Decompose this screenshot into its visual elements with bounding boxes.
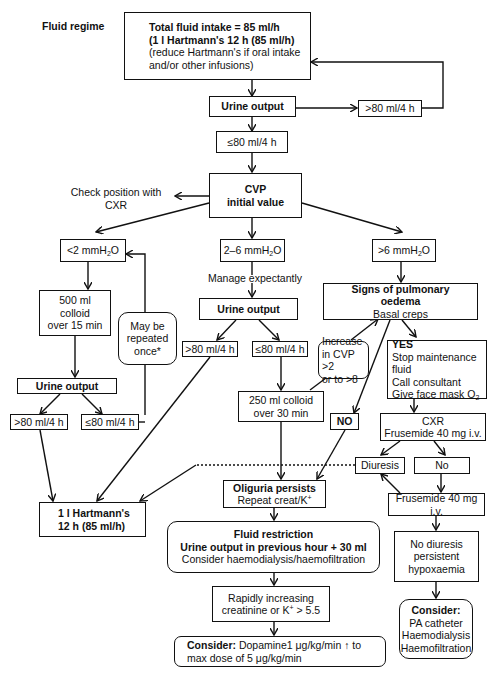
yes-line3: Call consultant	[392, 376, 461, 389]
dop-bold: Consider:	[187, 639, 236, 651]
inc-line3: or to >8	[322, 373, 358, 386]
lt2-label: <2 mmH	[67, 244, 107, 256]
nod-line3: hypoxaemia	[408, 563, 465, 576]
inc-line1: Increase	[322, 335, 362, 348]
start-node: Total fluid intake = 85 ml/h (1 l Hartma…	[124, 12, 311, 80]
check-line1: Check position with	[65, 186, 167, 199]
fluid-restriction-node: Fluid restriction Urine output in previo…	[167, 521, 380, 573]
cxr-line1: CXR	[422, 415, 444, 428]
yes-line4: Give face mask O	[392, 388, 475, 400]
restr-line1: Fluid restriction	[234, 528, 313, 541]
pulm-line1: Signs of pulmonary	[351, 283, 449, 296]
inc-line2: in CVP >2	[322, 348, 368, 373]
gt80-top: >80 ml/4 h	[358, 100, 422, 117]
gt6-label: >6 mmH	[378, 244, 418, 256]
colloid500-line2: colloid	[60, 307, 90, 320]
no2-node: No	[414, 457, 470, 474]
restr-line2: Urine output in previous hour + 30 ml	[180, 541, 366, 554]
diagram-title: Fluid regime	[42, 20, 104, 33]
oliguria-node: Oliguria persists Repeat creat/K+	[223, 480, 326, 508]
creatinine-node: Rapidly increasing creatinine or K+ > 5.…	[212, 586, 330, 622]
may-line1: May be	[130, 320, 164, 333]
frusemide2-node: Frusemide 40 mg i.v.	[388, 493, 485, 516]
check-position-label: Check position with CXR	[65, 186, 167, 211]
cvp-node: CVP initial value	[209, 173, 302, 218]
c250-line2: over 30 min	[254, 407, 309, 420]
left-gt80: >80 ml/4 h	[10, 414, 68, 430]
dop-line2: max dose of 5 μg/kg/min	[187, 652, 302, 665]
creat-line2: creatinine or K	[222, 604, 290, 616]
creat-line2b: > 5.5	[294, 604, 321, 616]
nod-line2: persistent	[414, 550, 460, 563]
hart-line2: 12 h (85 ml/h)	[58, 520, 125, 533]
hart-line1: 1 l Hartmann's	[58, 507, 130, 520]
r26-label: 2–6 mmH	[224, 244, 270, 256]
start-line3: (reduce Hartmann's if oral intake	[149, 46, 300, 59]
start-line4: and/or other infusions)	[149, 59, 253, 72]
le80-top: ≤80 ml/4 h	[216, 131, 288, 153]
dopamine-node: Consider: Dopamine1 μg/kg/min ↑ to max d…	[174, 636, 386, 667]
consider-right-node: Consider: PA catheter Haemodialysis Haem…	[399, 599, 473, 659]
yes-line1: YES	[392, 338, 413, 351]
cvp-line2: initial value	[227, 196, 284, 209]
pulm-line2: oedema	[381, 295, 421, 308]
may-repeat-note: May be repeated once*	[118, 312, 177, 365]
pulmonary-oedema-node: Signs of pulmonary oedema Basal creps	[323, 283, 478, 320]
may-line3: once*	[134, 345, 161, 358]
gt6-node: >6 mmH2O	[372, 239, 436, 262]
restr-line3: Consider haemodialysis/haemofiltration	[182, 553, 365, 566]
no-node: NO	[330, 413, 359, 430]
no-diuresis-node: No diuresis persistent hypoxaemia	[394, 531, 479, 582]
mid-le80: ≤80 ml/4 h	[252, 341, 308, 357]
diuresis-node: Diuresis	[355, 457, 405, 474]
cvp-line1: CVP	[245, 183, 267, 196]
start-line1: Total fluid intake = 85 ml/h	[149, 21, 280, 34]
manage-expectantly: Manage expectantly	[205, 272, 305, 285]
urine-output-mid: Urine output	[199, 298, 298, 320]
urine-output-top: Urine output	[209, 96, 296, 117]
lt2-suffix: O	[111, 244, 119, 256]
c250-line1: 250 ml colloid	[249, 394, 313, 407]
may-line2: repeated	[127, 332, 168, 345]
colloid500-line1: 500 ml	[59, 294, 91, 307]
increase-cvp-note: Increase in CVP >2 or to >8	[318, 341, 369, 379]
check-line2: CXR	[65, 199, 167, 212]
colloid500-node: 500 ml colloid over 15 min	[39, 290, 111, 336]
nod-line1: No diuresis	[410, 538, 463, 551]
cons-r-line4: Haemofiltration	[401, 642, 472, 655]
cons-r-line2: PA catheter	[409, 617, 463, 630]
hartmann-node: 1 l Hartmann's 12 h (85 ml/h)	[39, 502, 146, 537]
cons-r-line3: Haemodialysis	[402, 629, 470, 642]
colloid500-line3: over 15 min	[48, 319, 103, 332]
start-line2: (1 l Hartmann's 12 h (85 ml/h)	[149, 34, 294, 47]
yes-line2: Stop maintenance fluid	[392, 351, 486, 376]
olig-sup: +	[307, 494, 311, 501]
mid-gt80: >80 ml/4 h	[182, 341, 238, 357]
left-le80: ≤80 ml/4 h	[81, 414, 139, 430]
cxr-line2: Frusemide 40 mg i.v.	[384, 427, 481, 440]
olig-line1: Oliguria persists	[233, 482, 316, 495]
urine-output-left: Urine output	[17, 378, 117, 394]
colloid250-node: 250 ml colloid over 30 min	[238, 391, 324, 422]
creat-line1: Rapidly increasing	[228, 592, 314, 605]
yes-sub: 2	[475, 394, 479, 401]
dop-line1: Dopamine1 μg/kg/min ↑ to	[236, 639, 361, 651]
r26-suffix: O	[273, 244, 281, 256]
lt2-node: <2 mmH2O	[60, 239, 126, 262]
cons-r-line1: Consider:	[411, 604, 460, 617]
gt6-suffix: O	[422, 244, 430, 256]
olig-line2: Repeat creat/K	[237, 494, 307, 506]
r2-6-node: 2–6 mmH2O	[220, 239, 285, 262]
yes-node: YES Stop maintenance fluid Call consulta…	[387, 340, 487, 399]
cxr-frusemide-node: CXR Frusemide 40 mg i.v.	[380, 413, 486, 441]
pulm-line3: Basal creps	[373, 308, 428, 321]
